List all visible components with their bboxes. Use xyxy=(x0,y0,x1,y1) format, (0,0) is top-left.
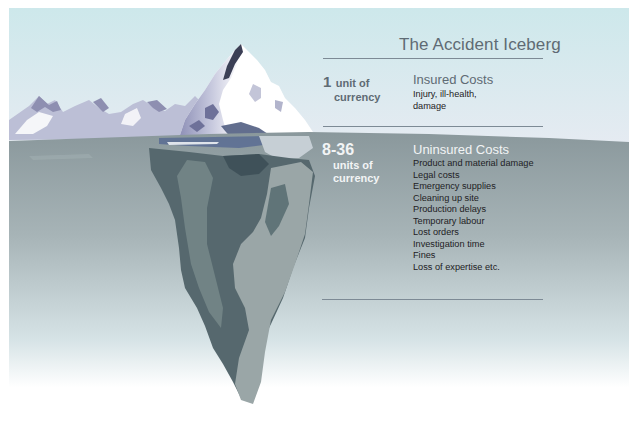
uninsured-item: Temporary labour xyxy=(413,216,534,228)
uninsured-item: Loss of expertise etc. xyxy=(413,262,534,274)
uninsured-amount: 8-36 units of currency xyxy=(322,141,379,185)
insured-items: Injury, ill-health, damage xyxy=(413,89,477,112)
insured-amount-value: 1 xyxy=(323,73,331,90)
insured-item: damage xyxy=(413,101,477,113)
uninsured-unit-line2: currency xyxy=(322,172,379,185)
diagram-title: The Accident Iceberg xyxy=(399,35,561,55)
uninsured-unit-line1: units of xyxy=(322,159,379,172)
iceberg-diagram: The Accident Iceberg 1 unit of currency … xyxy=(9,8,629,429)
insured-unit-line2: currency xyxy=(323,91,380,104)
sea xyxy=(9,132,629,429)
uninsured-item: Lost orders xyxy=(413,227,534,239)
uninsured-item: Investigation time xyxy=(413,239,534,251)
uninsured-items: Product and material damage Legal costs … xyxy=(413,158,534,273)
bottom-divider xyxy=(322,299,543,300)
title-divider xyxy=(323,58,543,59)
uninsured-item: Emergency supplies xyxy=(413,181,534,193)
uninsured-item: Product and material damage xyxy=(413,158,534,170)
insured-amount: 1 unit of currency xyxy=(323,73,380,104)
insured-item: Injury, ill-health, xyxy=(413,89,477,101)
uninsured-item: Cleaning up site xyxy=(413,193,534,205)
insured-heading: Insured Costs xyxy=(413,72,493,87)
uninsured-amount-value: 8-36 xyxy=(322,141,379,159)
uninsured-item: Fines xyxy=(413,250,534,262)
iceberg-illustration xyxy=(9,8,629,429)
insured-unit-line1: unit of xyxy=(336,77,370,89)
uninsured-item: Legal costs xyxy=(413,170,534,182)
waterline-divider xyxy=(323,126,543,127)
uninsured-heading: Uninsured Costs xyxy=(413,142,509,157)
uninsured-item: Production delays xyxy=(413,204,534,216)
